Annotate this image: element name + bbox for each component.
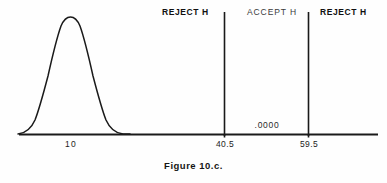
probability-annotation: .0000 [255, 120, 280, 130]
region-label-reject-left: REJECT H [162, 7, 209, 17]
region-label-accept: ACCEPT H [247, 7, 297, 17]
density-curve [18, 17, 130, 134]
figure-container: REJECT H ACCEPT H REJECT H .0000 10 40.5… [0, 0, 387, 183]
region-label-reject-right: REJECT H [320, 7, 367, 17]
axis-tick-label-mean: 10 [65, 139, 77, 149]
axis-tick-label-upper-critical: 59.5 [300, 139, 318, 149]
distribution-plot [0, 0, 387, 183]
figure-caption: Figure 10.c. [0, 160, 387, 171]
axis-tick-label-lower-critical: 40.5 [216, 139, 234, 149]
